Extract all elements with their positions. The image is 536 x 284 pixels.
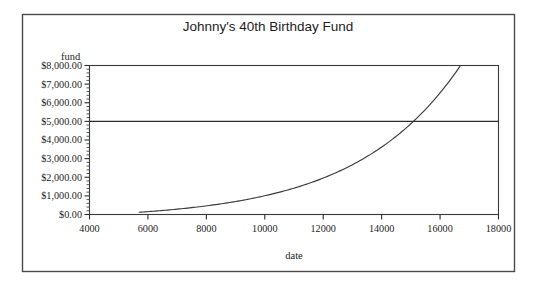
- chart-figure: Johnny's 40th Birthday Fund fund $0.00$1…: [0, 0, 536, 284]
- x-axis-label: date: [285, 250, 303, 261]
- y-tick-label: $3,000.00: [41, 153, 82, 164]
- chart-canvas: Johnny's 40th Birthday Fund fund $0.00$1…: [0, 0, 536, 284]
- chart-title: Johnny's 40th Birthday Fund: [183, 19, 354, 34]
- x-tick-label: 8000: [196, 223, 216, 234]
- y-axis-tick-labels: $0.00$1,000.00$2,000.00$3,000.00$4,000.0…: [41, 60, 82, 220]
- y-tick-label: $5,000.00: [41, 116, 82, 127]
- y-tick-label: $7,000.00: [41, 79, 82, 90]
- y-tick-label: $6,000.00: [41, 97, 82, 108]
- x-tick-label: 12000: [310, 223, 335, 234]
- x-tick-label: 6000: [138, 223, 158, 234]
- x-tick-label: 10000: [252, 223, 277, 234]
- x-tick-label: 14000: [369, 223, 394, 234]
- y-tick-label: $1,000.00: [41, 190, 82, 201]
- y-tick-label: $4,000.00: [41, 134, 82, 145]
- x-tick-label: 18000: [486, 223, 511, 234]
- x-tick-label: 16000: [427, 223, 452, 234]
- y-tick-label: $2,000.00: [41, 172, 82, 183]
- y-tick-label: $8,000.00: [41, 60, 82, 71]
- plot-area: [90, 66, 499, 215]
- y-tick-label: $0.00: [59, 209, 82, 220]
- x-tick-label: 4000: [79, 223, 99, 234]
